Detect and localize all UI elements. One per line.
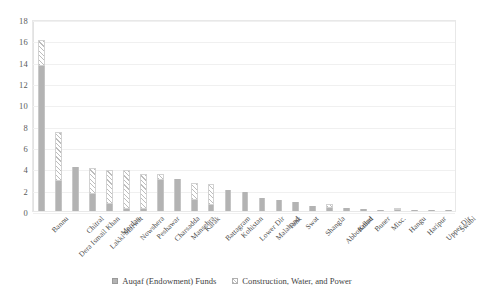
bar-segment-construction [123, 170, 130, 208]
bar-segment-auqaf [394, 210, 401, 211]
bar-segment-construction [208, 184, 215, 204]
x-axis-tick-label: Misc. [389, 214, 407, 232]
bar-stack [191, 183, 198, 211]
bar-segment-auqaf [428, 210, 435, 211]
bar-stack [208, 184, 215, 211]
bar-series-layer [33, 21, 455, 211]
bar-stack [411, 210, 418, 211]
legend-label: Construction, Water, and Power [242, 276, 351, 286]
bar-segment-construction [106, 170, 113, 203]
bar-segment-construction [140, 174, 147, 209]
bar-stack [123, 170, 130, 211]
x-axis-tick-label: Haripur [425, 214, 448, 237]
y-axis-tick-label: 8 [24, 123, 28, 133]
y-axis-tick-label: 14 [19, 59, 28, 69]
bar-segment-construction [38, 40, 45, 66]
bar-stack [428, 210, 435, 211]
bar-segment-construction [55, 132, 62, 181]
bar-stack [89, 168, 96, 211]
bar-stack [309, 206, 316, 211]
x-axis-tick-label: Shangla [323, 214, 347, 238]
x-axis-tick-label: Swabi [457, 214, 477, 234]
y-axis-tick-label: 2 [24, 187, 28, 197]
bar-segment-auqaf [377, 210, 384, 211]
bar-segment-auqaf [276, 200, 283, 211]
bar-segment-construction [89, 168, 96, 194]
bar-segment-auqaf [343, 208, 350, 211]
bar-segment-auqaf [292, 202, 299, 211]
bar-stack [140, 174, 147, 211]
y-axis-tick-label: 16 [19, 37, 28, 47]
legend-swatch-auqaf-icon [112, 278, 118, 284]
y-axis-tick-label: 6 [24, 144, 28, 154]
bar-stack [157, 174, 164, 211]
bar-segment-auqaf [360, 209, 367, 211]
bar-stack [55, 132, 62, 211]
bar-segment-auqaf [225, 190, 232, 211]
bar-stack [242, 192, 249, 211]
bar-segment-auqaf [326, 208, 333, 211]
bar-stack [225, 190, 232, 211]
bar-segment-auqaf [208, 205, 215, 211]
y-axis-tick-label: 0 [24, 208, 28, 218]
bar-stack [377, 210, 384, 211]
bar-stack [292, 202, 299, 211]
plot-area: 024681012141618 [32, 20, 456, 212]
bar-segment-auqaf [140, 209, 147, 211]
x-axis-tick-label: Kohat [355, 214, 374, 233]
x-axis-tick-label: Hangu [407, 214, 428, 235]
bar-segment-auqaf [106, 204, 113, 211]
bar-stack [326, 204, 333, 211]
legend-swatch-construction-icon [232, 278, 238, 284]
bar-stack [106, 170, 113, 211]
y-axis-tick-label: 10 [19, 101, 28, 111]
x-axis-tick-label: Swat [303, 214, 320, 231]
bar-segment-construction [191, 183, 198, 200]
chart-legend: Auqaf (Endowment) FundsConstruction, Wat… [0, 276, 464, 286]
bar-segment-auqaf [309, 206, 316, 211]
bar-stack [445, 210, 452, 211]
bar-segment-auqaf [157, 180, 164, 211]
bar-segment-auqaf [38, 66, 45, 211]
bar-segment-auqaf [55, 181, 62, 211]
x-axis-tick-label: Buner [372, 214, 391, 233]
y-axis-tick-label: 12 [19, 80, 28, 90]
bar-stack [174, 179, 181, 211]
bar-segment-auqaf [411, 210, 418, 211]
legend-item[interactable]: Auqaf (Endowment) Funds [112, 276, 216, 286]
bar-stack [259, 198, 266, 211]
y-axis-tick-label: 18 [19, 16, 28, 26]
legend-item[interactable]: Construction, Water, and Power [232, 276, 351, 286]
y-axis-tick-label: 4 [24, 165, 28, 175]
bar-segment-auqaf [174, 179, 181, 211]
bar-stack [360, 209, 367, 211]
bar-segment-auqaf [259, 198, 266, 211]
bar-stack [343, 208, 350, 211]
bar-segment-auqaf [242, 192, 249, 211]
bar-segment-auqaf [123, 209, 130, 211]
bar-stack [276, 200, 283, 211]
bar-segment-auqaf [89, 194, 96, 211]
x-axis-tick-label: Bannu [50, 214, 70, 234]
bar-segment-auqaf [191, 200, 198, 211]
bar-segment-auqaf [72, 167, 79, 211]
bar-segment-auqaf [445, 210, 452, 211]
bar-stack [38, 40, 45, 211]
bar-stack [72, 167, 79, 211]
bar-stack [394, 208, 401, 211]
legend-label: Auqaf (Endowment) Funds [122, 276, 216, 286]
